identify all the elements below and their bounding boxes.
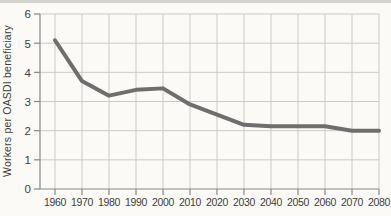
x-tick-label: 1960 xyxy=(44,196,67,208)
y-tick-label: 1 xyxy=(25,154,31,166)
line-chart: 0123456 19601970198019902000201020202030… xyxy=(0,0,391,216)
x-tick-label: 2010 xyxy=(179,196,202,208)
y-tick-label: 4 xyxy=(25,67,32,79)
x-tick-label: 2080 xyxy=(368,196,391,208)
x-tick-label: 1980 xyxy=(98,196,121,208)
x-tick-label: 2000 xyxy=(152,196,175,208)
y-tick-label: 0 xyxy=(25,183,31,195)
x-tick-label: 1970 xyxy=(71,196,94,208)
x-tick-label: 1990 xyxy=(125,196,148,208)
y-tick-label: 5 xyxy=(25,38,31,50)
x-tick-label: 2050 xyxy=(287,196,310,208)
x-tick-label: 2060 xyxy=(314,196,337,208)
y-tick-label: 3 xyxy=(25,96,31,108)
scan-edge-band xyxy=(0,0,391,3)
chart-figure: 0123456 19601970198019902000201020202030… xyxy=(0,0,391,216)
y-tick-label: 6 xyxy=(25,8,31,20)
x-tick-label: 2020 xyxy=(206,196,229,208)
x-tick-label: 2040 xyxy=(260,196,283,208)
y-tick-label: 2 xyxy=(25,125,31,137)
x-tick-label: 2070 xyxy=(341,196,364,208)
y-axis-title: Workers per OASDI beneficiary xyxy=(1,24,13,177)
x-tick-label: 2030 xyxy=(233,196,256,208)
